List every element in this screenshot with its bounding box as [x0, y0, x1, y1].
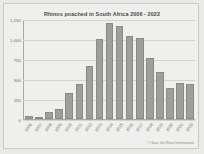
bar-slot	[135, 20, 145, 119]
x-label-slot: 2017	[135, 121, 145, 145]
bar[interactable]	[35, 117, 43, 119]
x-axis-tick-label: 2006	[24, 122, 33, 133]
bar[interactable]	[76, 84, 84, 119]
x-label-slot: 2009	[54, 121, 64, 145]
y-axis-tick-label: 1,250	[10, 18, 21, 23]
x-axis-tick-label: 2021	[175, 122, 184, 133]
bar[interactable]	[116, 26, 124, 119]
bar-slot	[115, 20, 125, 119]
bar-slot	[64, 20, 74, 119]
x-axis-tick-label: 2016	[124, 122, 133, 133]
bar-slot	[54, 20, 64, 119]
bar[interactable]	[45, 112, 53, 119]
x-axis-tick-label: 2007	[34, 122, 43, 133]
x-axis-tick-label: 2022	[185, 122, 194, 133]
bar[interactable]	[186, 84, 194, 119]
x-label-slot: 2011	[74, 121, 84, 145]
bar-slot	[105, 20, 115, 119]
x-axis-tick-label: 2019	[154, 122, 163, 133]
x-axis-tick-label: 2020	[165, 122, 174, 133]
bar-slot	[155, 20, 165, 119]
bar[interactable]	[55, 109, 63, 119]
bar[interactable]	[146, 58, 154, 119]
x-axis-tick-label: 2009	[54, 122, 63, 133]
y-axis-tick-label: 1,000	[10, 38, 21, 43]
x-label-slot: 2007	[34, 121, 44, 145]
bar-slot	[125, 20, 135, 119]
x-axis-tick-label: 2012	[84, 122, 93, 133]
bar[interactable]	[136, 38, 144, 119]
y-axis-tick-label: 500	[14, 78, 21, 83]
x-axis-tick-label: 2014	[104, 122, 113, 133]
bar[interactable]	[25, 116, 33, 119]
x-axis-tick-label: 2013	[94, 122, 103, 133]
x-axis-tick-label: 2018	[144, 122, 153, 133]
bar-series	[24, 20, 195, 119]
chart-credit: © Save the Rhino International	[148, 141, 194, 145]
bar-slot	[44, 20, 54, 119]
y-axis-tick-label: 250	[14, 98, 21, 103]
x-axis-tick-label: 2010	[64, 122, 73, 133]
x-label-slot: 2010	[64, 121, 74, 145]
bar[interactable]	[65, 93, 73, 119]
chart-title: Rhinos poached in South Africa 2006 - 20…	[4, 11, 200, 17]
bar-slot	[34, 20, 44, 119]
bar[interactable]	[106, 23, 114, 119]
bar-slot	[175, 20, 185, 119]
plot-area: 02505007501,0001,250	[23, 20, 195, 120]
y-axis-tick-label: 750	[14, 58, 21, 63]
x-axis-tick-label: 2011	[74, 122, 83, 132]
bar-slot	[165, 20, 175, 119]
x-label-slot: 2013	[94, 121, 104, 145]
x-label-slot: 2006	[24, 121, 34, 145]
bar[interactable]	[96, 39, 104, 119]
bar[interactable]	[166, 88, 174, 119]
bar[interactable]	[86, 66, 94, 119]
x-label-slot: 2015	[115, 121, 125, 145]
x-axis-tick-label: 2008	[44, 122, 53, 133]
bar-slot	[24, 20, 34, 119]
y-axis-tick-label: 0	[19, 118, 21, 123]
x-label-slot: 2008	[44, 121, 54, 145]
bar-slot	[84, 20, 94, 119]
x-label-slot: 2016	[125, 121, 135, 145]
bar[interactable]	[176, 83, 184, 119]
chart-card: Rhinos poached in South Africa 2006 - 20…	[3, 3, 199, 149]
x-axis-tick-label: 2015	[114, 122, 123, 133]
bar-slot	[185, 20, 195, 119]
x-label-slot: 2014	[105, 121, 115, 145]
x-axis-tick-label: 2017	[134, 122, 143, 133]
bar[interactable]	[156, 72, 164, 119]
bar[interactable]	[126, 36, 134, 119]
bar-slot	[145, 20, 155, 119]
bar-slot	[74, 20, 84, 119]
x-label-slot: 2012	[84, 121, 94, 145]
bar-slot	[94, 20, 104, 119]
